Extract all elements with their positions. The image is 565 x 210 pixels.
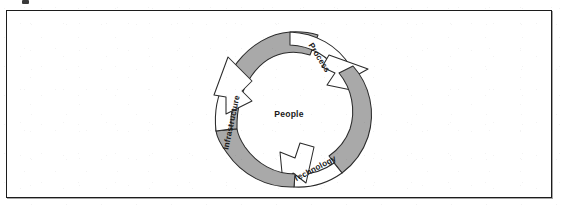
cycle-diagram: .ol { stroke: #2b2b2b; stroke-width: 1.0… [190, 19, 386, 210]
scanned-page: .ol { stroke: #2b2b2b; stroke-width: 1.0… [0, 0, 565, 210]
figure-frame: .ol { stroke: #2b2b2b; stroke-width: 1.0… [6, 10, 552, 198]
arrow-technology: Technology [280, 66, 372, 187]
caption-ink-fragment [22, 0, 29, 4]
center-label-people: People [274, 109, 303, 119]
